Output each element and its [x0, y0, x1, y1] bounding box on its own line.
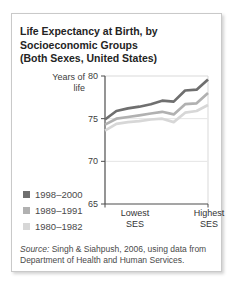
y-tick-label-80: 80	[88, 70, 98, 82]
legend-item: 1980–1982	[23, 218, 101, 234]
chart-card: Life Expectancy at Birth, by Socioeconom…	[11, 13, 222, 272]
legend-swatch	[23, 191, 30, 198]
source-label: Source:	[20, 244, 49, 254]
y-tick-label-75: 75	[88, 113, 98, 125]
y-tick-label-70: 70	[88, 155, 98, 167]
legend-label: 1998–2000	[35, 189, 83, 200]
chart-title: Life Expectancy at Birth, by Socioeconom…	[20, 25, 210, 66]
legend-item: 1989–1991	[23, 202, 101, 218]
chart-title-line-2: Socioeconomic Groups	[20, 39, 210, 53]
legend-swatch	[23, 223, 30, 230]
legend-label: 1989–1991	[35, 205, 83, 216]
legend: 1998–20001989–19911980–1982	[23, 186, 101, 234]
y-axis-title: Years of life	[40, 72, 85, 94]
x-tick-label-highest-ses: Highest SES	[186, 208, 231, 230]
legend-label: 1980–1982	[35, 221, 83, 232]
chart-title-line-3: (Both Sexes, United States)	[20, 52, 210, 66]
x-tick-label-lowest-ses: Lowest SES	[112, 208, 158, 230]
chart-title-line-1: Life Expectancy at Birth, by	[20, 25, 210, 39]
plot-area	[99, 74, 211, 208]
legend-swatch	[23, 207, 30, 214]
legend-item: 1998–2000	[23, 186, 101, 202]
source-note: Source: Singh & Siahpush, 2006, using da…	[20, 244, 214, 266]
figure-page: Life Expectancy at Birth, by Socioeconom…	[0, 0, 231, 282]
